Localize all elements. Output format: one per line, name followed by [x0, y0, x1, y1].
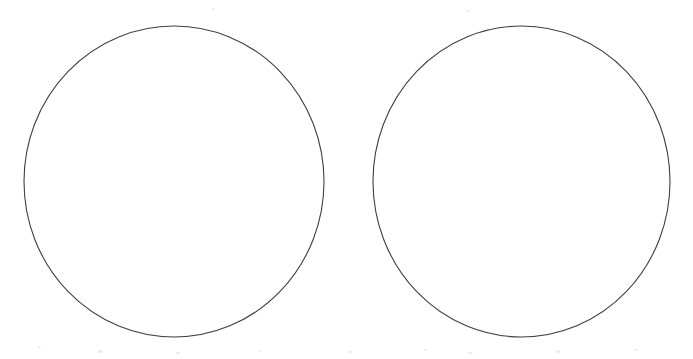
figure-canvas — [0, 0, 693, 359]
canvas-background — [0, 0, 693, 359]
circles-diagram — [0, 0, 693, 359]
